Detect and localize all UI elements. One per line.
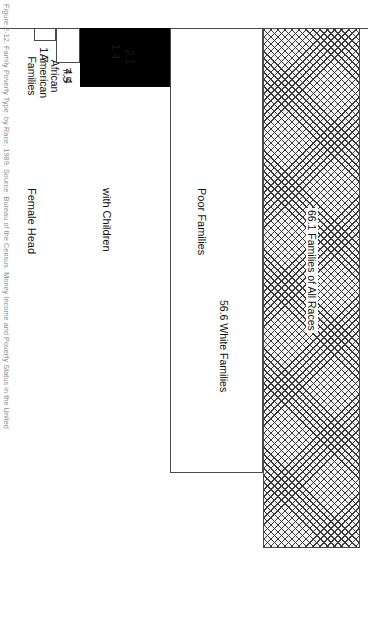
bar-label-all-races-poor-families: 66.1 Families of All Races bbox=[306, 208, 318, 333]
bar-african-american-female-head bbox=[111, 28, 124, 39]
category-label-female-head: Female Head bbox=[26, 188, 38, 254]
bar-series-name-white: White Families bbox=[218, 323, 230, 392]
bar-value-african-american-female-head: 1.4 bbox=[110, 44, 122, 59]
bar-white-female-head bbox=[34, 28, 56, 41]
bar-value-white-with-children: 4.4 bbox=[62, 69, 74, 84]
bar-value-white-poor-families: 56.6 bbox=[218, 300, 230, 320]
category-label-with-children: with Children bbox=[101, 188, 113, 252]
series-name-line-3: Families bbox=[26, 48, 38, 104]
figure-caption: Figure 2-12. Family Poverty Type, by Rac… bbox=[2, 4, 11, 604]
bar-african-american-with-children bbox=[124, 28, 138, 45]
bar-label-white-poor-families: 56.6 White Families bbox=[218, 300, 230, 392]
bar-chart: 66.1 Families of All Races 56.6 White Fa… bbox=[0, 0, 368, 628]
scanned-figure-page: 66.1 Families of All Races 56.6 White Fa… bbox=[0, 0, 368, 628]
bar-white-poor-families bbox=[170, 28, 263, 473]
bar-value-white-female-head: 1.7 bbox=[38, 47, 50, 62]
bar-value-african-american-with-children: 2.1 bbox=[124, 50, 136, 65]
category-label-poor-families: Poor Families bbox=[196, 188, 208, 255]
rotated-chart-canvas: 66.1 Families of All Races 56.6 White Fa… bbox=[0, 0, 368, 628]
bar-white-with-children bbox=[56, 28, 80, 63]
